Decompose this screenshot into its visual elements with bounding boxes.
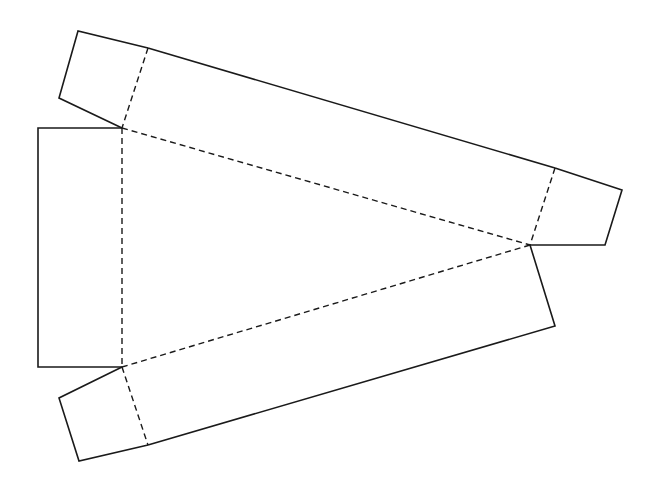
top-left-flap <box>59 31 148 128</box>
net-drawing <box>0 0 654 497</box>
bottom-rect-right-edge <box>148 245 555 445</box>
left-rect <box>38 128 122 367</box>
top-rect-outer-edge <box>148 48 555 168</box>
fold-lines <box>122 48 555 445</box>
bottom-left-flap <box>59 367 148 461</box>
prism-net-diagram <box>0 0 654 497</box>
bottom-flap-fold <box>122 367 148 445</box>
top-flap-fold <box>122 48 148 128</box>
cut-lines <box>38 31 622 461</box>
triangle-top-edge <box>122 128 530 245</box>
right-flap <box>530 168 622 245</box>
right-flap-fold <box>530 168 555 245</box>
triangle-bottom-edge <box>122 245 530 367</box>
